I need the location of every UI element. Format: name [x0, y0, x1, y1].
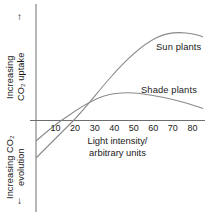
y-axis-upper-label-line1: Increasing	[5, 55, 15, 98]
x-axis-label-line1: Light intensity/	[88, 135, 148, 146]
y-axis-upper-label: Increasing CO₂ uptake	[5, 34, 26, 120]
y-axis-lower-label: Increasing CO₂ evolution	[5, 128, 26, 206]
x-tick-label: 70	[165, 123, 181, 133]
x-tick-label: 10	[48, 123, 64, 133]
x-tick-label: 40	[106, 123, 122, 133]
x-tick-label: 20	[67, 123, 83, 133]
y-axis-lower-label-line1: Increasing CO₂	[5, 135, 15, 199]
x-axis-label: Light intensity/arbitrary units	[55, 135, 180, 158]
arrow-up-icon: ↑	[17, 12, 22, 22]
x-tick-label: 80	[184, 123, 200, 133]
x-tick-label: 60	[145, 123, 161, 133]
arrow-down-icon: ↓	[17, 196, 22, 206]
sun-plants-annotation: Sun plants	[156, 41, 201, 52]
y-axis-lower-label-line2: evolution	[16, 148, 26, 186]
x-tick-label: 50	[126, 123, 142, 133]
photosynthesis-light-response-chart	[0, 0, 210, 216]
shade-plants-curve	[36, 93, 203, 141]
x-axis-label-line2: arbitrary units	[89, 147, 146, 158]
y-axis-upper-label-line2: CO₂ uptake	[16, 53, 26, 102]
x-tick-label: 30	[87, 123, 103, 133]
shade-plants-annotation: Shade plants	[141, 84, 197, 95]
